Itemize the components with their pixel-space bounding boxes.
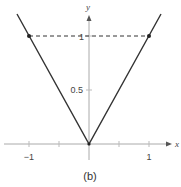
x-tick-label-1: 1 bbox=[146, 152, 151, 162]
chart-caption: (b) bbox=[83, 170, 96, 182]
x-axis-label: x bbox=[174, 139, 179, 149]
point-origin bbox=[87, 142, 90, 145]
x-tick-label-neg1: −1 bbox=[24, 152, 34, 162]
x-axis-arrow-icon bbox=[166, 142, 172, 147]
y-tick-label-1: 1 bbox=[79, 32, 84, 42]
chart-svg: −1 1 0.5 1 x y (b) bbox=[0, 0, 181, 187]
point-neg1-1 bbox=[27, 34, 31, 38]
point-1-1 bbox=[147, 34, 151, 38]
y-axis-label: y bbox=[85, 2, 90, 12]
y-tick-label-0.5: 0.5 bbox=[70, 85, 83, 95]
y-axis-arrow-icon bbox=[87, 15, 92, 21]
